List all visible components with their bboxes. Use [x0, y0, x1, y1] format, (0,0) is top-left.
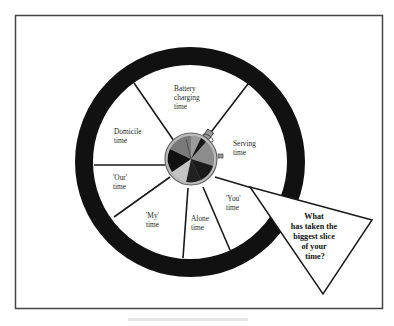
slice-label-my: 'My' time	[146, 211, 161, 229]
time-wheel-diagram: Battery charging time Serving time 'You'…	[0, 0, 394, 326]
caption-remnant	[128, 318, 248, 321]
